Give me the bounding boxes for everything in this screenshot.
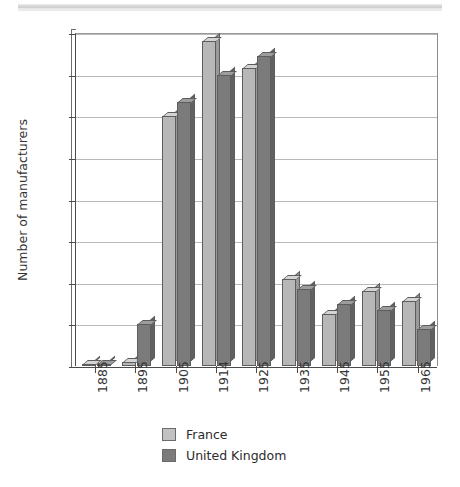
bar-france [242,68,256,366]
bar-group [277,34,317,366]
x-tick-label: 1885 [95,361,110,393]
legend-label-united-kingdom: United Kingdom [186,448,298,463]
bar-chart-figure: Number of manufacturers 1601401201008060… [0,0,460,487]
bar-united-kingdom [217,75,231,366]
y-tick-mark [69,242,76,243]
y-tick-mark [69,201,76,202]
x-label-cell: 1965 [398,375,438,430]
bar-group [116,34,156,366]
bar-france [162,116,176,366]
bar-france [362,291,376,366]
y-tick-mark [69,159,76,160]
bar-face [202,41,216,366]
bar-group [317,34,357,366]
bar-face [337,304,351,366]
y-tick-mark [69,76,76,77]
bar-face [377,310,391,366]
y-tick-mark [69,284,76,285]
y-tick-mark [69,325,76,326]
x-label-cell: 1885 [75,375,115,430]
x-tick-label: 1905 [176,361,191,393]
x-label-cell: 1925 [236,375,276,430]
y-tick-mark [69,34,76,35]
bar-face [282,279,296,366]
bar-face [362,291,376,366]
bar-united-kingdom [337,304,351,366]
x-axis-labels: 188518951905191419251935194519551965 [75,375,438,430]
bar-group [236,34,276,366]
bar-united-kingdom [257,56,271,366]
bar-france [322,314,336,366]
bar-united-kingdom [137,324,151,366]
bar-face [257,56,271,366]
x-label-cell: 1935 [277,375,317,430]
x-tick-label: 1955 [377,361,392,393]
bar-group [397,34,437,366]
bar-group [196,34,236,366]
x-tick-label: 1935 [297,361,312,393]
x-label-cell: 1895 [115,375,155,430]
bar-group [357,34,397,366]
bar-group [76,34,116,366]
x-label-cell: 1914 [196,375,236,430]
x-label-cell: 1905 [156,375,196,430]
chart-legend: France United Kingdom [0,427,460,463]
legend-label-france: France [186,427,298,442]
legend-item-united-kingdom: United Kingdom [162,448,298,463]
bar-groups [76,34,437,366]
bar-face [217,75,231,366]
x-label-cell: 1945 [317,375,357,430]
bar-face [402,301,416,366]
bar-face [242,68,256,366]
bar-face [322,314,336,366]
bar-united-kingdom [297,289,311,366]
legend-item-france: France [162,427,298,442]
x-tick-label: 1945 [337,361,352,393]
x-tick-label: 1895 [135,361,150,393]
plot-area: 160140120100806040200 [75,33,438,366]
y-axis-label: Number of manufacturers [15,119,30,281]
x-tick-label: 1965 [418,361,433,393]
y-tick-mark [69,117,76,118]
x-label-cell: 1955 [357,375,397,430]
y-axis-label-wrap: Number of manufacturers [30,33,31,366]
bar-face [162,116,176,366]
bar-face [137,324,151,366]
scan-artifact-line-secondary [18,9,442,11]
bar-france [202,41,216,366]
x-tick-label: 1914 [216,361,231,393]
legend-swatch-france [162,428,176,441]
bar-face [297,289,311,366]
bar-face [177,102,191,366]
bar-france [402,301,416,366]
bar-united-kingdom [377,310,391,366]
legend-swatch-united-kingdom [162,449,176,462]
x-tick-label: 1925 [256,361,271,393]
bar-france [282,279,296,366]
bar-group [156,34,196,366]
bar-united-kingdom [177,102,191,366]
